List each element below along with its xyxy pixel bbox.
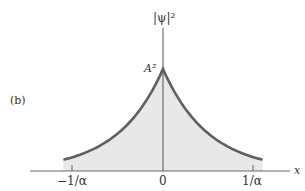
x-axis-label: x xyxy=(294,164,300,177)
tick-label-neg: −1/α xyxy=(57,174,87,188)
panel-label: (b) xyxy=(10,94,26,107)
plot-area xyxy=(0,0,305,191)
figure: |ψ|² A² (b) x −1/α 0 1/α xyxy=(0,0,305,191)
tick-label-pos: 1/α xyxy=(242,174,262,188)
peak-label: A² xyxy=(144,62,156,75)
y-axis-label: |ψ|² xyxy=(153,11,175,25)
tick-label-zero: 0 xyxy=(159,174,167,188)
